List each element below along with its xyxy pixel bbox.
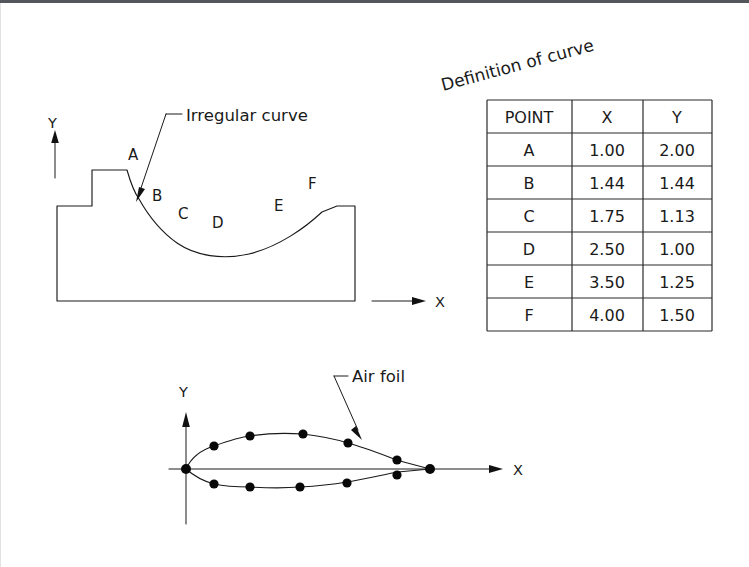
profile-point-label-e: E bbox=[274, 197, 283, 215]
table-cell-y: 1.25 bbox=[659, 273, 695, 292]
table-header-y: Y bbox=[671, 108, 682, 127]
table-cell-x: 2.50 bbox=[589, 240, 625, 259]
airfoil-lower-control-points bbox=[209, 470, 401, 491]
profile-point-label-a: A bbox=[128, 146, 139, 164]
technical-drawing-canvas: Y X Irregular curve A B C D E F bbox=[0, 3, 749, 567]
airfoil-leader-arrowhead bbox=[351, 426, 362, 440]
airfoil-leading-edge-point bbox=[181, 464, 191, 474]
table-cell-x: 1.00 bbox=[589, 141, 625, 160]
table-cell-x: 1.75 bbox=[589, 207, 625, 226]
table-cell-y: 1.13 bbox=[659, 207, 695, 226]
profile-point-label-d: D bbox=[212, 214, 224, 232]
table-cell-point: D bbox=[523, 240, 535, 259]
profile-y-axis-label: Y bbox=[47, 115, 57, 131]
profile-figure: Y X Irregular curve A B C D E F bbox=[47, 106, 445, 310]
airfoil-x-axis-arrowhead bbox=[489, 465, 503, 473]
profile-y-axis-arrowhead bbox=[51, 130, 59, 143]
table-caption: Definition of curve bbox=[439, 35, 596, 95]
table-cell-point: C bbox=[523, 207, 534, 226]
table-header-x: X bbox=[602, 108, 613, 127]
airfoil-control-point bbox=[342, 478, 351, 487]
table-cell-point: F bbox=[524, 306, 533, 325]
table-cell-x: 1.44 bbox=[589, 174, 625, 193]
airfoil-x-axis bbox=[169, 465, 503, 473]
airfoil-label: Air foil bbox=[352, 367, 405, 386]
table-cell-y: 2.00 bbox=[659, 141, 695, 160]
profile-x-axis-arrowhead bbox=[412, 297, 426, 305]
airfoil-control-point bbox=[209, 479, 218, 488]
airfoil-lower-surface bbox=[186, 469, 430, 488]
table-header-point: POINT bbox=[505, 108, 554, 127]
drawing-sheet: Y X Irregular curve A B C D E F bbox=[0, 0, 749, 567]
table-cell-point: E bbox=[524, 273, 534, 292]
definition-table-text: POINT X Y A 1.00 2.00 B 1.44 1.44 C 1.75… bbox=[505, 108, 695, 325]
table-cell-x: 4.00 bbox=[589, 306, 625, 325]
table-cell-point: A bbox=[524, 141, 535, 160]
profile-x-axis bbox=[372, 297, 426, 305]
airfoil-x-axis-label: X bbox=[513, 462, 523, 478]
profile-y-axis bbox=[51, 130, 59, 178]
airfoil-y-axis-label: Y bbox=[178, 384, 188, 400]
table-cell-y: 1.44 bbox=[659, 174, 695, 193]
table-cell-y: 1.00 bbox=[659, 240, 695, 259]
airfoil-control-point bbox=[209, 441, 218, 450]
airfoil-trailing-edge-point bbox=[425, 464, 435, 474]
airfoil-control-point bbox=[298, 429, 307, 438]
table-cell-point: B bbox=[524, 174, 535, 193]
profile-point-label-f: F bbox=[308, 175, 317, 193]
airfoil-control-point bbox=[392, 470, 401, 479]
airfoil-upper-surface bbox=[186, 433, 430, 469]
airfoil-figure: Y X bbox=[169, 367, 523, 524]
airfoil-control-point bbox=[245, 431, 254, 440]
airfoil-upper-control-points bbox=[209, 429, 401, 464]
airfoil-control-point bbox=[295, 482, 304, 491]
table-cell-y: 1.50 bbox=[659, 306, 695, 325]
profile-point-label-b: B bbox=[152, 187, 162, 205]
airfoil-control-point bbox=[343, 438, 352, 447]
airfoil-control-point bbox=[245, 482, 254, 491]
airfoil-control-point bbox=[392, 455, 401, 464]
irregular-curve-leader-arrowhead bbox=[136, 187, 145, 202]
irregular-curve-label: Irregular curve bbox=[186, 106, 308, 125]
profile-x-axis-label: X bbox=[435, 294, 445, 310]
airfoil-y-axis-arrowhead bbox=[182, 412, 190, 427]
table-cell-x: 3.50 bbox=[589, 273, 625, 292]
profile-point-label-c: C bbox=[178, 205, 188, 223]
